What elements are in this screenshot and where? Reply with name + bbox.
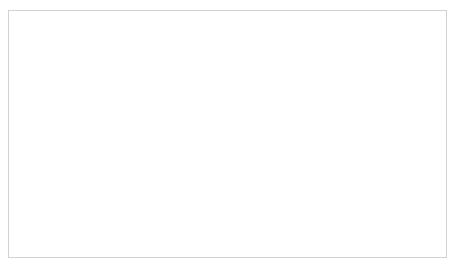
x-axis: [50, 216, 437, 230]
chart-frame: [8, 10, 447, 258]
bar-series-group: [50, 27, 437, 214]
plot-area: [50, 27, 437, 214]
chart-legend: [50, 239, 437, 255]
